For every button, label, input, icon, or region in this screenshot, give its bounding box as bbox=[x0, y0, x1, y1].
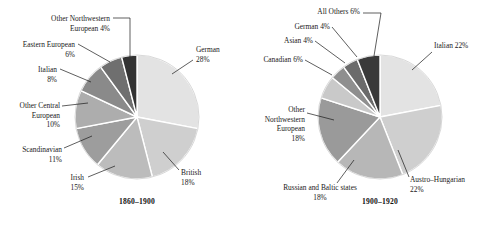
slice-label: Austro–Hungarian22% bbox=[410, 175, 465, 194]
leader-line bbox=[315, 41, 345, 63]
slice-label: Italian8% bbox=[38, 65, 57, 84]
pie-slice[interactable] bbox=[137, 55, 199, 129]
leader-line bbox=[305, 60, 332, 75]
chart-caption: 1860–1900 bbox=[119, 197, 155, 206]
slice-label: Irish15% bbox=[70, 173, 84, 192]
leader-line bbox=[78, 44, 110, 62]
leader-line bbox=[60, 69, 91, 82]
slice-label: Asian 4% bbox=[284, 36, 313, 45]
slice-label: British18% bbox=[181, 168, 201, 187]
slice-label: Other NorthwesternEuropean 4% bbox=[51, 14, 110, 33]
slice-label: Italian 22% bbox=[434, 41, 468, 50]
slice-label: Scandinavian11% bbox=[22, 145, 62, 164]
immigration-pie-charts: German28%British18%Irish15%Scandinavian1… bbox=[0, 0, 485, 230]
pie-chart-1: German28%British18%Irish15%Scandinavian1… bbox=[20, 14, 221, 206]
slice-label: OtherNorthwesternEuropean18% bbox=[265, 105, 306, 143]
figure-canvas: German28%British18%Irish15%Scandinavian1… bbox=[0, 0, 485, 230]
slice-label: German 4% bbox=[294, 22, 330, 31]
leader-line bbox=[172, 60, 193, 74]
slice-label: All Others 6% bbox=[317, 7, 360, 16]
chart-caption: 1900–1920 bbox=[362, 197, 398, 206]
leader-line bbox=[363, 13, 381, 56]
leader-line bbox=[332, 27, 357, 57]
leader-line bbox=[412, 52, 432, 70]
slice-label: Eastern European6% bbox=[23, 40, 76, 59]
slice-label: German28% bbox=[196, 45, 220, 64]
pie-chart-2: Italian 22%Austro–Hungarian22%Russian an… bbox=[263, 7, 468, 206]
slice-label: Canadian 6% bbox=[263, 55, 303, 64]
slice-label: Other CentralEuropean10% bbox=[20, 101, 61, 129]
slice-label: Russian and Baltic states18% bbox=[283, 183, 357, 202]
leader-line bbox=[113, 18, 130, 57]
